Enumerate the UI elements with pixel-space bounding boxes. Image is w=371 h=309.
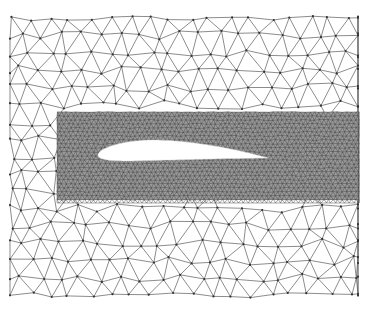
mesh-diagram: [0, 0, 371, 309]
mesh-figure: Unstructured triangular mesh around an a…: [0, 0, 371, 309]
